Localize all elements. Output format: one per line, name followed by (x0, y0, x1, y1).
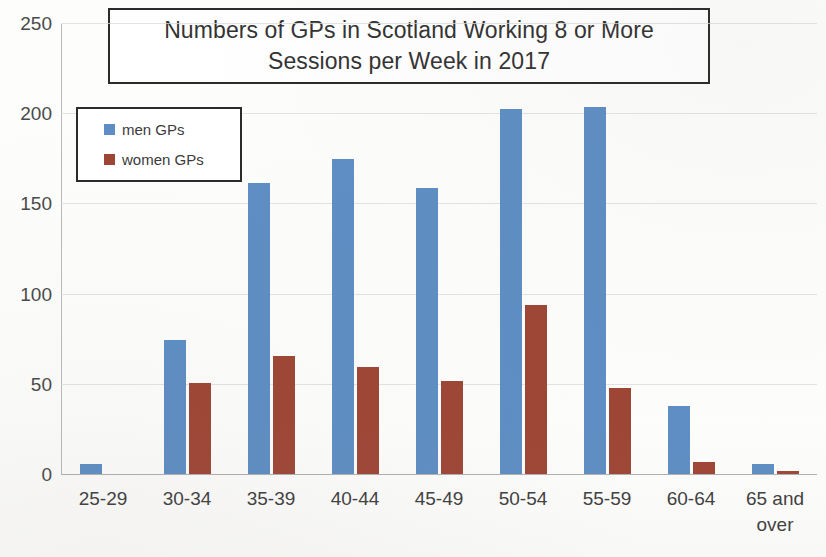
legend-label-men: men GPs (122, 121, 185, 138)
x-tick-label: 30-34 (145, 486, 229, 512)
x-tick-label: 25-29 (61, 486, 145, 512)
bar-group (145, 24, 229, 475)
bar (500, 109, 522, 475)
x-tick-label-line: 50-54 (481, 486, 565, 512)
y-tick-label-250: 250 (4, 13, 52, 35)
x-tick-label-line: 35-39 (229, 486, 313, 512)
bar-group (565, 24, 649, 475)
y-tick-label-150: 150 (4, 193, 52, 215)
x-tick-label-line: 30-34 (145, 486, 229, 512)
x-tick-label: 60-64 (649, 486, 733, 512)
y-tick-label-50: 50 (4, 374, 52, 396)
x-tick-label-line: over (733, 512, 817, 538)
x-tick-label-line: 55-59 (565, 486, 649, 512)
bar-group (397, 24, 481, 475)
legend-label-women: women GPs (122, 151, 204, 168)
x-axis-line (61, 474, 817, 475)
x-axis-category-labels: 25-2930-3435-3940-4445-4950-5455-5960-64… (61, 486, 817, 554)
legend-swatch-men-icon (104, 124, 115, 135)
bar-group (481, 24, 565, 475)
bar (357, 367, 379, 475)
plot-area (61, 24, 817, 475)
x-tick-label: 55-59 (565, 486, 649, 512)
legend-item-men: men GPs (104, 115, 240, 145)
x-tick-label: 40-44 (313, 486, 397, 512)
bar (332, 159, 354, 475)
x-tick-label: 45-49 (397, 486, 481, 512)
chart-legend: men GPs women GPs (76, 107, 242, 182)
bar (189, 383, 211, 475)
y-tick-label-200: 200 (4, 103, 52, 125)
bar-group (649, 24, 733, 475)
x-tick-label: 35-39 (229, 486, 313, 512)
x-tick-label: 50-54 (481, 486, 565, 512)
legend-swatch-women-icon (104, 154, 115, 165)
bar (164, 340, 186, 475)
bar-group (61, 24, 145, 475)
bar-group (229, 24, 313, 475)
x-tick-label-line: 45-49 (397, 486, 481, 512)
x-tick-label-line: 65 and (733, 486, 817, 512)
bar (273, 356, 295, 475)
bar (668, 406, 690, 475)
bar (525, 305, 547, 475)
x-tick-label-line: 25-29 (61, 486, 145, 512)
y-tick-label-100: 100 (4, 284, 52, 306)
bar (416, 188, 438, 475)
bar (609, 388, 631, 475)
bar-group (733, 24, 817, 475)
legend-item-women: women GPs (104, 145, 240, 175)
x-tick-label-line: 60-64 (649, 486, 733, 512)
bar (584, 107, 606, 475)
chart-container: Numbers of GPs in Scotland Working 8 or … (0, 0, 826, 557)
bar (441, 381, 463, 475)
y-tick-label-0: 0 (4, 464, 52, 486)
x-tick-label: 65 andover (733, 486, 817, 538)
bar (248, 183, 270, 475)
x-tick-label-line: 40-44 (313, 486, 397, 512)
bar-group (313, 24, 397, 475)
